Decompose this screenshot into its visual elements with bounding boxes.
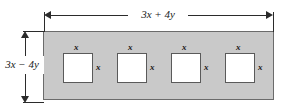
hole-right-label: x: [96, 63, 101, 72]
square-hole: [117, 53, 147, 83]
arrow-up-icon: [21, 31, 29, 38]
arrow-down-icon: [21, 96, 29, 103]
square-hole: [171, 53, 201, 83]
hole-top-label: x: [236, 43, 241, 52]
hole-top-label: x: [182, 43, 187, 52]
square-hole: [225, 53, 255, 83]
width-label: 3x + 4y: [128, 6, 188, 23]
height-label: 3x − 4y: [0, 55, 44, 73]
arrow-right-icon: [266, 11, 273, 19]
extension-line-right: [273, 12, 274, 32]
geometry-figure: x x x x x x x x 3x + 4y 3x − 4y: [0, 0, 281, 111]
hole-right-label: x: [204, 63, 209, 72]
arrow-left-icon: [44, 11, 51, 19]
hole-right-label: x: [258, 63, 263, 72]
square-hole: [63, 53, 93, 83]
hole-top-label: x: [74, 43, 79, 52]
hole-right-label: x: [150, 63, 155, 72]
hole-top-label: x: [128, 43, 133, 52]
